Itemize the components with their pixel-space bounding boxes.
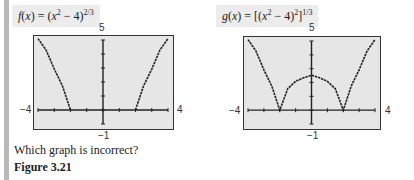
figure-question: Which graph is incorrect? — [14, 143, 138, 158]
graph-g-ymin: −1 — [307, 130, 318, 141]
graph-f-xmin: −4 — [20, 104, 31, 115]
plot-curve — [38, 39, 71, 110]
figure-title: Figure 3.21 — [14, 160, 72, 175]
plot-curve — [136, 39, 169, 110]
graph-g-label: g(x) = [(x2 − 4)2]1/3 — [216, 5, 318, 27]
graph-f-label: f(x) = (x2 − 4)2/3 — [12, 5, 100, 27]
graph-f-xmax: 4 — [177, 104, 183, 115]
side-accent-bar — [4, 0, 9, 180]
graph-g-xmin: −4 — [229, 105, 240, 116]
graph-f-ymax: 5 — [99, 22, 105, 33]
graph-g-ymax: 5 — [309, 22, 315, 33]
graph-f-screen — [33, 35, 174, 130]
graph-f-ymin: −1 — [98, 130, 109, 141]
graph-g-screen — [243, 36, 381, 130]
graph-g-xmax: 4 — [385, 105, 391, 116]
